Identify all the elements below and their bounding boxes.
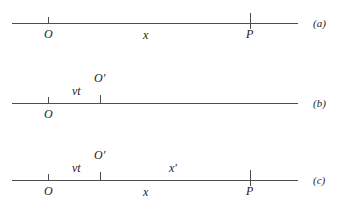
tick-origin-O xyxy=(48,97,49,104)
label-vt: vt xyxy=(72,162,81,174)
panel-tag-b: (b) xyxy=(313,98,326,109)
panel-tag-a: (a) xyxy=(313,18,326,29)
label-O: O xyxy=(44,108,53,120)
axis-line xyxy=(12,23,298,24)
tick-origin-O-prime xyxy=(100,95,101,103)
label-O-prime: O′ xyxy=(94,72,105,84)
tick-origin-O-prime xyxy=(100,172,101,180)
panel-tag-c: (c) xyxy=(313,175,325,186)
axis-line xyxy=(12,180,298,181)
reference-frame-figure: OxPOvtO′OvtO′x′xP(a)(b)(c) xyxy=(0,0,343,205)
axis-line xyxy=(12,103,298,104)
label-x: x xyxy=(143,29,148,41)
label-P: P xyxy=(246,185,253,197)
label-x: x xyxy=(143,186,148,198)
tick-origin-O xyxy=(48,17,49,24)
label-vt: vt xyxy=(72,85,81,97)
label-x-prime: x′ xyxy=(169,162,177,174)
label-O-prime: O′ xyxy=(94,149,105,161)
label-O: O xyxy=(44,185,53,197)
tick-origin-O xyxy=(48,174,49,181)
label-O: O xyxy=(44,28,53,40)
label-P: P xyxy=(246,28,253,40)
